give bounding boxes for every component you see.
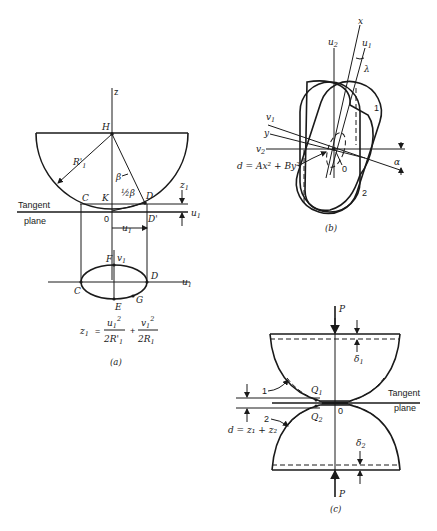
svg-text:u12: u12 <box>107 315 121 330</box>
v1-label: v1 <box>117 253 126 265</box>
u1-label: u1 <box>362 38 372 50</box>
half-beta-label: ½β <box>121 188 135 198</box>
svg-text:=: = <box>95 326 100 336</box>
point-C-label: C <box>82 193 89 203</box>
origin-dot-b <box>332 147 336 151</box>
point-D2-dot <box>145 280 148 283</box>
load-top-label: P <box>338 304 346 314</box>
origin-label-c: 0 <box>338 406 343 416</box>
point-E-dot <box>112 297 115 300</box>
v1-label: v1 <box>266 112 275 124</box>
upper-body-deformed-right <box>348 378 384 402</box>
tangent-label-1: Tangent <box>18 200 51 210</box>
v2-label: v2 <box>256 144 265 156</box>
body-1-leader <box>268 380 288 391</box>
svg-text:+: + <box>130 326 135 336</box>
origin-label-b: 0 <box>342 164 347 174</box>
z1-label: z1 <box>179 180 189 192</box>
body-2-label-c: 2 <box>264 414 269 424</box>
alpha-label: α <box>394 157 400 167</box>
svg-text:2R1: 2R1 <box>137 334 155 346</box>
point-H-label: H <box>101 122 110 132</box>
point-Q2-dot <box>315 405 318 408</box>
gap-equation-c: d = z₁ + z₂ <box>228 425 277 435</box>
tangent-label-c-1: Tangent <box>388 388 421 398</box>
point-D-dot <box>143 201 147 205</box>
caption-c: (c) <box>330 504 341 514</box>
Q2-label: Q2 <box>311 412 323 424</box>
figure-b: u2 x u1 λ v1 y v2 α 0 1 2 d = Ax² + By² … <box>237 16 405 233</box>
x-label: x <box>358 16 363 26</box>
lower-body-deformed-right <box>348 404 384 425</box>
point-C-dot <box>79 280 82 283</box>
radius-line <box>58 134 112 183</box>
Q1-label: Q1 <box>311 385 323 397</box>
ellipse-point-D-label: D <box>150 271 158 281</box>
y-axis <box>270 134 365 158</box>
u2-label: u2 <box>328 37 338 49</box>
contact-geometry-figure: z H R'1 β ½β C K D D' 0 Tangent plane z1… <box>0 0 437 531</box>
svg-text:2R'1: 2R'1 <box>103 334 123 346</box>
tangent-label-2: plane <box>24 216 46 226</box>
body-2-shape <box>300 82 360 212</box>
formula: z1 = u12 2R'1 + v12 2R1 <box>79 315 158 346</box>
load-bottom-label: P <box>338 489 346 499</box>
beta-label: β <box>115 172 121 182</box>
svg-text:z1: z1 <box>79 326 89 338</box>
point-K-label: K <box>101 193 110 203</box>
point-F-label: F <box>105 254 113 264</box>
gap-equation-b: d = Ax² + By² <box>237 161 300 171</box>
lambda-arc <box>356 58 364 59</box>
caption-a: (a) <box>110 357 122 367</box>
svg-text:v12: v12 <box>141 315 154 330</box>
point-G-dot <box>131 294 134 297</box>
point-G-label: G <box>136 295 143 305</box>
figure-a: z H R'1 β ½β C K D D' 0 Tangent plane z1… <box>17 87 201 367</box>
origin-leader-b <box>336 152 342 165</box>
ellipse-u1-label: u1 <box>182 277 192 289</box>
delta1-label: δ1 <box>354 354 364 366</box>
body-1-label: 1 <box>374 103 379 113</box>
body-1-label-c: 1 <box>262 386 267 396</box>
lambda-label: λ <box>363 64 370 74</box>
ellipse-point-C-label: C <box>74 286 81 296</box>
point-F-dot <box>112 263 115 266</box>
point-D-prime-label: D' <box>147 214 158 224</box>
point-D-label: D <box>145 191 153 201</box>
u1-axis-label: u1 <box>191 208 201 220</box>
tangent-label-c-2: plane <box>394 403 416 413</box>
beta-tick <box>122 174 128 176</box>
point-E-label: E <box>114 302 122 312</box>
lower-body-arc <box>272 405 400 470</box>
delta2-label: δ2 <box>356 438 366 450</box>
z-axis-label: z <box>114 87 119 97</box>
origin-label: 0 <box>104 214 109 224</box>
figure-c: P δ1 Tangent plane 0 d = z₁ + z₂ 1 <box>228 304 421 514</box>
caption-b: (b) <box>325 223 337 233</box>
point-Q1-dot <box>315 399 318 402</box>
body-2-label: 2 <box>362 188 367 198</box>
u1-dimension-label: u1 <box>122 223 132 235</box>
y-label: y <box>263 128 270 138</box>
